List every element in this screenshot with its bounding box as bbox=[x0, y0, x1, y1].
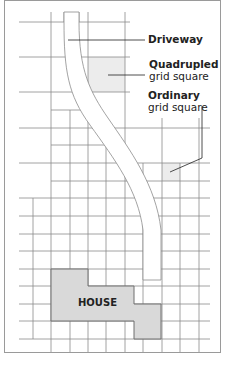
ordinary-label: Ordinary grid square bbox=[148, 89, 208, 113]
quadrupled-title: Quadrupled bbox=[149, 58, 218, 70]
quadrupled-label: Quadrupled grid square bbox=[149, 58, 218, 82]
quadrupled-subtitle: grid square bbox=[149, 70, 209, 82]
house-label: HOUSE bbox=[78, 297, 117, 308]
ordinary-title: Ordinary bbox=[148, 89, 200, 101]
driveway-label: Driveway bbox=[148, 33, 203, 45]
ordinary-subtitle: grid square bbox=[148, 101, 208, 113]
ordinary-grid-square bbox=[162, 163, 180, 181]
grid-diagram bbox=[0, 0, 227, 366]
quadrupled-grid-square bbox=[88, 57, 125, 92]
diagram-frame: Driveway Quadrupled grid square Ordinary… bbox=[0, 0, 227, 366]
